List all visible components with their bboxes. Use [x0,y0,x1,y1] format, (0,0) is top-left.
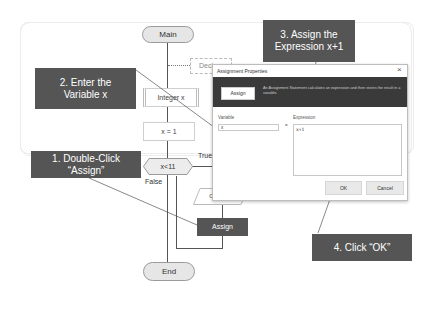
expression-label: Expression [293,115,315,120]
dialog-title: Assignment Properties [217,68,267,74]
cancel-button[interactable]: Cancel [366,181,404,195]
false-label: False [145,178,162,185]
equals-sign: = [285,123,288,128]
callout-step-3: 3. Assign the Expression x+1 [263,20,355,62]
flow-line-assign-down [222,236,223,249]
variable-label: Variable [218,115,234,120]
callout-step-4: 4. Click “OK” [312,234,412,261]
callout-step-2: 2. Enter the Variable x [35,68,136,109]
condition-label: x<11 [143,158,193,175]
flow-line-loop-bottom [176,248,223,249]
declare-dotted-line [168,65,190,66]
ok-button[interactable]: OK [325,181,362,195]
assign-x-equals-1[interactable]: x = 1 [143,122,195,141]
condition-hexagon[interactable]: x<11 [143,158,193,175]
expression-textarea[interactable]: x+1 [293,124,402,176]
true-label: True [198,152,212,159]
dialog-close-button[interactable]: × [397,65,402,74]
flow-line-output-down [222,205,223,218]
start-terminal[interactable]: Main [142,26,194,43]
dialog-description: An Assignment Statement calculates an ex… [263,86,403,96]
declare-integer-x[interactable]: Integer x [143,88,199,107]
callout-step-1: 1. Double-Click “Assign” [31,151,141,178]
end-terminal[interactable]: End [143,262,195,281]
assignment-properties-dialog: Assignment Properties × Assign An Assign… [212,64,408,201]
assign-block[interactable]: Assign [197,218,248,236]
variable-input[interactable] [218,124,279,131]
flow-line-loop-up [176,176,177,248]
dialog-banner: Assign An Assignment Statement calculate… [213,77,407,107]
assign-type-button[interactable]: Assign [221,87,255,100]
